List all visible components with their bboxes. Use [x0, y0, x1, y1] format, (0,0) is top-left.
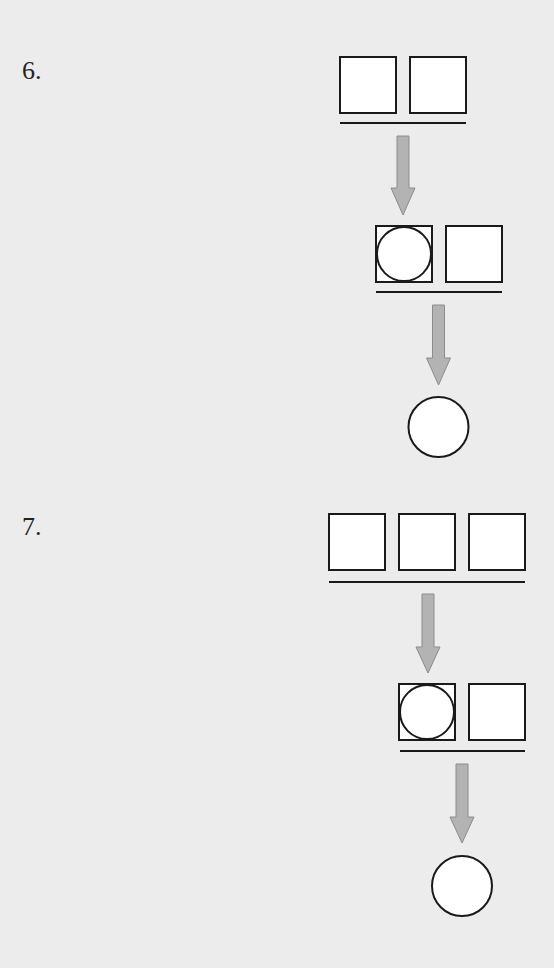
down-arrow-icon [391, 136, 415, 215]
circle-in-box [377, 227, 431, 281]
problem-6-diagram [340, 57, 502, 457]
square-box [446, 226, 502, 282]
down-arrow-icon [427, 305, 451, 385]
square-box [340, 57, 396, 113]
problem-7-diagram [329, 514, 525, 916]
result-circle [432, 856, 492, 916]
down-arrow-icon [450, 764, 474, 843]
square-box [329, 514, 385, 570]
circle-in-box [400, 685, 454, 739]
square-box [469, 684, 525, 740]
down-arrow-icon [416, 594, 440, 673]
square-box [410, 57, 466, 113]
result-circle [409, 397, 469, 457]
square-box [399, 514, 455, 570]
square-box [469, 514, 525, 570]
set-reduction-diagram [0, 0, 554, 968]
